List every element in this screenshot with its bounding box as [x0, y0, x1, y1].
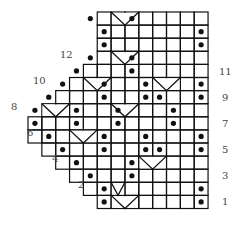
chart-cell [180, 38, 194, 51]
chart-cell [125, 130, 139, 143]
row-label-11: 11 [219, 67, 232, 77]
chart-cell [180, 117, 194, 130]
decrease-cell [140, 157, 166, 169]
chart-cell [180, 64, 194, 77]
chart-cell [194, 64, 208, 77]
yarn-over-dot [199, 147, 204, 152]
chart-cell [180, 25, 194, 38]
chart-cell [194, 117, 208, 130]
chart-cell [167, 12, 181, 25]
chart-cell [125, 143, 139, 156]
yarn-over-dot [102, 42, 107, 47]
chart-cell [167, 25, 181, 38]
yarn-over-dot [129, 55, 134, 60]
chart-cell [83, 182, 97, 195]
yarn-over-dot [46, 95, 51, 100]
yarn-over-dot [143, 81, 148, 86]
chart-cell [56, 130, 70, 143]
row-label-10: 10 [33, 76, 46, 86]
chart-cell [167, 195, 181, 208]
yarn-over-dot [74, 121, 79, 126]
chart-cell [125, 117, 139, 130]
chart-cell [111, 38, 125, 51]
yarn-over-dot [102, 134, 107, 139]
chart-cell [111, 91, 125, 104]
chart-cell [125, 25, 139, 38]
chart-cell [97, 104, 111, 117]
yarn-over-dot [32, 121, 37, 126]
chart-cell [167, 91, 181, 104]
chart-cell [139, 195, 153, 208]
yarn-over-dot [143, 95, 148, 100]
yarn-over-dot [157, 147, 162, 152]
row-label-2: 2 [78, 180, 84, 190]
yarn-over-dot [74, 108, 79, 113]
row-label-3: 3 [222, 171, 228, 181]
chart-cell [139, 64, 153, 77]
chart-cell [111, 143, 125, 156]
row-label-12: 12 [60, 50, 73, 60]
chart-cell [83, 64, 97, 77]
yarn-over-dot [115, 108, 120, 113]
chart-cell [97, 64, 111, 77]
chart-cell [83, 143, 97, 156]
chart-cell [139, 104, 153, 117]
chart-cell [139, 182, 153, 195]
chart-cell [139, 117, 153, 130]
yarn-over-dot [60, 81, 65, 86]
chart-cell [83, 91, 97, 104]
decrease-cell [112, 196, 138, 208]
chart-cell [111, 64, 125, 77]
chart-cell [83, 156, 97, 169]
chart-cell [167, 51, 181, 64]
yarn-over-dot [143, 134, 148, 139]
chart-cell [180, 91, 194, 104]
chart-cell [180, 156, 194, 169]
decrease-cell [43, 105, 69, 117]
yarn-over-dot [102, 95, 107, 100]
yarn-over-dot [199, 42, 204, 47]
yarn-over-dot [143, 147, 148, 152]
chart-cell [153, 12, 167, 25]
chart-cell [153, 51, 167, 64]
row-label-1: 1 [222, 197, 228, 207]
yarn-over-dot [102, 81, 107, 86]
chart-cell [194, 51, 208, 64]
row-label-5: 5 [222, 145, 228, 155]
lace-chart [0, 0, 244, 227]
chart-cell [97, 169, 111, 182]
chart-cell [125, 91, 139, 104]
yarn-over-dot [74, 160, 79, 165]
chart-cell [139, 12, 153, 25]
row-label-9: 9 [222, 93, 228, 103]
yarn-over-dot [199, 186, 204, 191]
chart-cell [56, 117, 70, 130]
yarn-over-dot [88, 16, 93, 21]
yarn-over-dot [171, 108, 176, 113]
chart-cell [180, 182, 194, 195]
chart-cell [125, 78, 139, 91]
chart-cell [70, 143, 84, 156]
row-label-6: 6 [27, 128, 33, 138]
chart-cell [167, 130, 181, 143]
row-label-4: 4 [52, 154, 58, 164]
yarn-over-dot [199, 95, 204, 100]
chart-cell [194, 169, 208, 182]
chart-cell [194, 12, 208, 25]
yarn-over-dot [199, 199, 204, 204]
chart-cell [111, 25, 125, 38]
decrease-cell [153, 78, 179, 90]
chart-cell [153, 130, 167, 143]
chart-cell [153, 117, 167, 130]
yarn-over-dot [102, 199, 107, 204]
chart-cell [97, 12, 111, 25]
yarn-over-dot [32, 108, 37, 113]
chart-cell [70, 78, 84, 91]
chart-cell [180, 143, 194, 156]
yarn-over-dot [129, 173, 134, 178]
chart-cell [153, 25, 167, 38]
chart-cell [180, 195, 194, 208]
chart-cell [125, 182, 139, 195]
chart-cell [97, 156, 111, 169]
chart-cell [111, 169, 125, 182]
